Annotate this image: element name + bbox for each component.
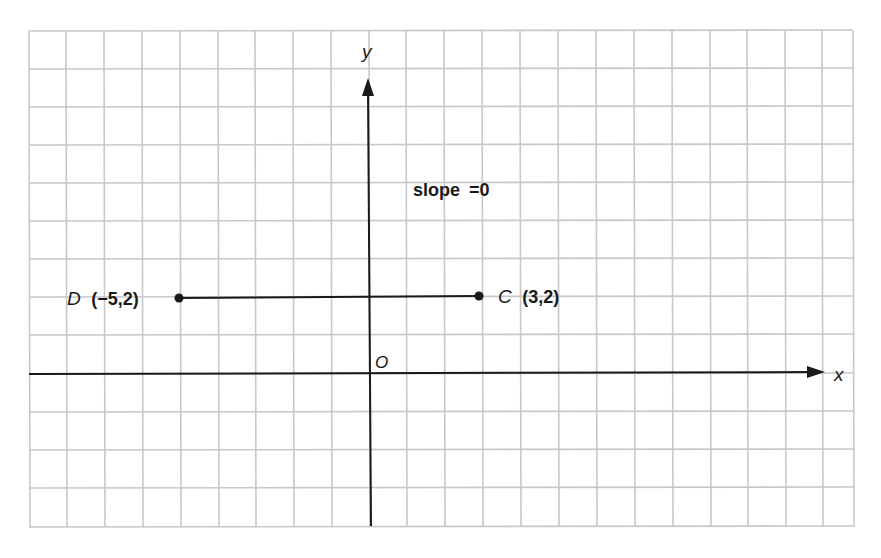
y-axis-label: y [362,42,372,61]
point-d-label: D (−5,2) [67,289,139,308]
origin-label: O [375,354,388,371]
y-axis-arrow-icon [362,78,374,96]
point-d [175,294,184,303]
point-d-name: D [67,288,81,309]
slope-annotation: slope =0 [413,181,490,199]
point-c-label: C (3,2) [498,287,559,306]
grid-lines [29,30,854,527]
segment-dc [175,292,484,303]
point-c-coords: (3,2) [522,287,559,307]
x-axis-label: x [834,365,844,384]
coordinate-plane [0,0,881,558]
slope-equals-zero: =0 [469,180,490,200]
slope-text: slope [413,180,460,200]
point-c-name: C [498,286,512,307]
x-axis [29,366,825,378]
point-d-coords: (−5,2) [91,289,139,309]
point-c [475,292,484,301]
